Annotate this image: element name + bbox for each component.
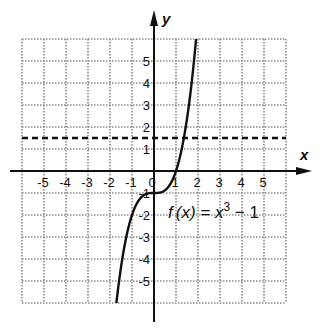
y-tick-label: 5 — [143, 54, 150, 69]
x-tick-label: -5 — [37, 175, 49, 190]
graph-figure: -5-4-3-2-101234554321-1-2-3-4-5 x y f(x)… — [0, 0, 320, 330]
function-label-body: (x) = x — [176, 203, 224, 222]
y-tick-label: -5 — [138, 274, 150, 289]
y-tick-label: -4 — [138, 252, 150, 267]
x-tick-label: 4 — [237, 175, 244, 190]
x-tick-label: 3 — [215, 175, 222, 190]
y-tick-label: 1 — [143, 142, 150, 157]
y-tick-label: 3 — [143, 98, 150, 113]
y-axis-arrow-icon — [150, 10, 158, 26]
y-tick-label: 2 — [143, 120, 150, 135]
y-tick-label: -2 — [138, 208, 150, 223]
x-axis-arrow-icon — [296, 167, 312, 175]
y-axis-label: y — [161, 10, 171, 27]
coordinate-plane: -5-4-3-2-101234554321-1-2-3-4-5 x y f(x)… — [0, 0, 320, 330]
x-tick-label: 5 — [259, 175, 266, 190]
x-tick-label: 2 — [193, 175, 200, 190]
x-tick-label: -3 — [81, 175, 93, 190]
axes — [10, 10, 312, 322]
x-axis-label: x — [299, 146, 309, 163]
x-tick-label: -2 — [103, 175, 115, 190]
x-tick-label: -4 — [59, 175, 71, 190]
function-label-name: f — [168, 203, 175, 222]
y-tick-label: 4 — [143, 76, 150, 91]
y-tick-label: -3 — [138, 230, 150, 245]
x-tick-label: -1 — [125, 175, 137, 190]
function-label: f(x) = x3 − 1 — [168, 200, 259, 222]
function-label-suffix: − 1 — [230, 203, 259, 222]
